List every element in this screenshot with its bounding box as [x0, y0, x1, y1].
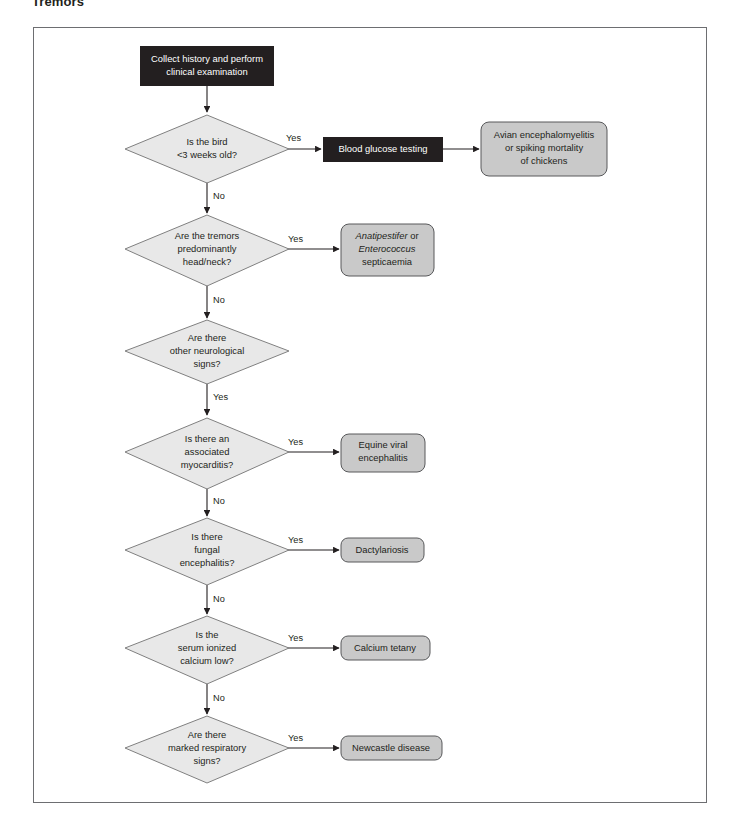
node-outcome-avian-encephalomyelitis-line2: or spiking mortality: [505, 142, 583, 153]
edge-label-no-5: No: [213, 594, 225, 604]
node-decision-other-neurological-signs-line3: signs?: [193, 358, 220, 369]
edge-label-no-1: No: [213, 191, 225, 201]
node-decision-marked-respiratory-signs-line1: Are there: [188, 729, 227, 740]
node-decision-other-neurological-signs-line1: Are there: [188, 332, 227, 343]
node-decision-fungal-encephalitis-line1: Is there: [191, 531, 222, 542]
node-decision-associated-myocarditis[interactable]: Is there an associated myocarditis?: [125, 418, 289, 489]
node-decision-bird-age[interactable]: Is the bird <3 weeks old?: [125, 115, 289, 183]
node-decision-fungal-encephalitis-line3: encephalitis?: [180, 557, 235, 568]
edge-label-yes-4: Yes: [288, 437, 303, 447]
node-outcome-anatipestifer-conj: or: [408, 230, 419, 241]
node-collect-history-line2: clinical examination: [166, 66, 247, 77]
node-collect-history[interactable]: Collect history and perform clinical exa…: [140, 46, 274, 86]
node-outcome-anatipestifer-septicaemia-line3: septicaemia: [362, 256, 413, 267]
node-outcome-calcium-tetany[interactable]: Calcium tetany: [341, 636, 430, 660]
node-outcome-equine-viral-encephalitis-line2: encephalitis: [358, 452, 408, 463]
node-decision-tremor-location-line1: Are the tremors: [175, 230, 240, 241]
node-decision-bird-age-line1: Is the bird: [186, 136, 227, 147]
edge-label-no-4: No: [213, 496, 225, 506]
node-decision-fungal-encephalitis-line2: fungal: [194, 544, 220, 555]
flowchart-diagram: Yes No Yes No Yes Yes No Yes No Yes No Y…: [0, 0, 737, 836]
edge-label-yes-1: Yes: [286, 133, 301, 143]
node-decision-marked-respiratory-signs-line2: marked respiratory: [168, 742, 246, 753]
node-outcome-equine-viral-encephalitis-line1: Equine viral: [359, 439, 408, 450]
edge-label-yes-6: Yes: [288, 633, 303, 643]
node-outcome-newcastle-disease-label: Newcastle disease: [352, 742, 430, 753]
node-outcome-avian-encephalomyelitis-line3: of chickens: [521, 155, 568, 166]
edge-label-no-2: No: [213, 295, 225, 305]
node-decision-serum-ionized-calcium-line1: Is the: [196, 629, 219, 640]
node-outcome-anatipestifer-septicaemia-line1: Anatipestifer or: [354, 230, 418, 241]
node-decision-serum-ionized-calcium-line2: serum ionized: [178, 642, 236, 653]
node-decision-marked-respiratory-signs-line3: signs?: [193, 755, 220, 766]
node-outcome-dactylariosis[interactable]: Dactylariosis: [341, 538, 424, 562]
node-collect-history-line1: Collect history and perform: [151, 53, 263, 64]
node-outcome-anatipestifer-genus: Anatipestifer: [354, 230, 408, 241]
node-decision-tremor-location-line2: predominantly: [178, 243, 237, 254]
edge-label-yes-7: Yes: [288, 733, 303, 743]
node-blood-glucose-testing-label: Blood glucose testing: [338, 143, 427, 154]
node-decision-serum-ionized-calcium[interactable]: Is the serum ionized calcium low?: [125, 616, 289, 684]
node-outcome-anatipestifer-septicaemia-line2: Enterococcus: [359, 243, 416, 254]
node-outcome-calcium-tetany-label: Calcium tetany: [354, 642, 416, 653]
node-decision-bird-age-line2: <3 weeks old?: [177, 149, 237, 160]
edge-label-yes-3: Yes: [213, 392, 228, 402]
node-decision-other-neurological-signs[interactable]: Are there other neurological signs?: [125, 320, 289, 384]
node-outcome-avian-encephalomyelitis-line1: Avian encephalomyelitis: [494, 129, 595, 140]
node-decision-associated-myocarditis-line2: associated: [185, 446, 230, 457]
node-decision-serum-ionized-calcium-line3: calcium low?: [180, 655, 234, 666]
node-decision-fungal-encephalitis[interactable]: Is there fungal encephalitis?: [125, 518, 289, 585]
node-outcome-dactylariosis-label: Dactylariosis: [355, 544, 408, 555]
edge-label-yes-5: Yes: [288, 535, 303, 545]
node-outcome-equine-viral-encephalitis[interactable]: Equine viral encephalitis: [341, 434, 425, 472]
node-decision-marked-respiratory-signs[interactable]: Are there marked respiratory signs?: [125, 716, 289, 783]
node-decision-associated-myocarditis-line3: myocarditis?: [181, 459, 234, 470]
node-decision-tremor-location[interactable]: Are the tremors predominantly head/neck?: [125, 215, 289, 286]
node-blood-glucose-testing[interactable]: Blood glucose testing: [323, 137, 443, 162]
edge-label-no-6: No: [213, 693, 225, 703]
node-decision-associated-myocarditis-line1: Is there an: [185, 433, 229, 444]
node-decision-tremor-location-line3: head/neck?: [183, 256, 231, 267]
node-outcome-newcastle-disease[interactable]: Newcastle disease: [341, 736, 442, 760]
node-decision-other-neurological-signs-line2: other neurological: [170, 345, 245, 356]
node-outcome-avian-encephalomyelitis[interactable]: Avian encephalomyelitis or spiking morta…: [481, 122, 607, 176]
edge-label-yes-2: Yes: [288, 234, 303, 244]
node-outcome-anatipestifer-septicaemia[interactable]: Anatipestifer or Enterococcus septicaemi…: [341, 224, 434, 276]
